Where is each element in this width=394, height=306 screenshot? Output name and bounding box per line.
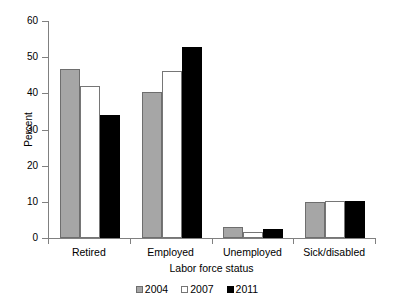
bar-unemployed-2011 [263, 229, 283, 238]
x-axis-label-unemployed: Unemployed [212, 246, 294, 258]
legend-swatch-icon-2007 [181, 286, 188, 293]
y-axis-tick-label: 40 [16, 88, 38, 98]
y-axis-tick-label: 10 [16, 197, 38, 207]
bars-layer [49, 21, 375, 238]
legend-item-2004: 2004 [136, 283, 168, 295]
bar-sick-disabled-2011 [345, 201, 365, 238]
bar-employed-2007 [162, 71, 182, 238]
legend-label-2004: 2004 [145, 283, 168, 295]
x-axis-tick [293, 239, 294, 244]
bar-employed-2011 [182, 47, 202, 238]
legend-item-2011: 2011 [227, 283, 259, 295]
legend-label-2011: 2011 [236, 283, 259, 295]
bar-sick-disabled-2004 [305, 202, 325, 238]
x-axis-tick [375, 239, 376, 244]
y-axis-tick-label: 20 [16, 161, 38, 171]
legend-item-2007: 2007 [181, 283, 213, 295]
bar-retired-2007 [80, 86, 100, 238]
bar-unemployed-2007 [243, 232, 263, 238]
legend-swatch-icon-2011 [227, 286, 234, 293]
bar-chart: Percent 0102030405060 RetiredEmployedUne… [0, 0, 394, 306]
x-axis-label-employed: Employed [130, 246, 212, 258]
y-axis-tick-label: 0 [16, 233, 38, 243]
bar-retired-2011 [100, 115, 120, 238]
chart-legend: 200420072011 [0, 283, 394, 295]
x-axis-tick [130, 239, 131, 244]
bar-sick-disabled-2007 [325, 201, 345, 238]
legend-label-2007: 2007 [190, 283, 213, 295]
bar-unemployed-2004 [223, 227, 243, 238]
legend-swatch-icon-2004 [136, 286, 143, 293]
y-axis-tick-label: 50 [16, 52, 38, 62]
y-axis-tick-label: 60 [16, 16, 38, 26]
x-axis-tick [48, 239, 49, 244]
x-axis-label-sick-disabled: Sick/disabled [293, 246, 375, 258]
bar-retired-2004 [60, 69, 80, 238]
x-axis-label-retired: Retired [48, 246, 130, 258]
x-axis-tick [212, 239, 213, 244]
x-axis-title: Labor force status [48, 262, 375, 274]
y-axis-tick-label: 30 [16, 125, 38, 135]
bar-employed-2004 [142, 92, 162, 238]
